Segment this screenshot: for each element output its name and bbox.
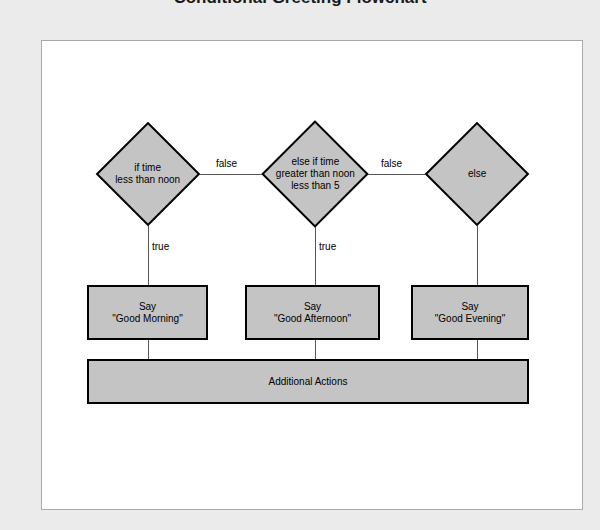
process-node-say-good-evening[interactable]: Say"Good Evening"	[411, 285, 529, 340]
decision-node-label: else if timegreater than noonless than 5	[276, 156, 355, 192]
edge-label-false-1: false	[216, 158, 237, 169]
process-node-label: Say"Good Morning"	[112, 301, 182, 325]
process-node-label: Say"Good Evening"	[435, 301, 505, 325]
process-node-say-good-afternoon[interactable]: Say"Good Afternoon"	[245, 285, 380, 340]
edge-label-true-1: true	[152, 241, 169, 252]
process-node-say-good-morning[interactable]: Say"Good Morning"	[87, 285, 208, 340]
flowchart-canvas: false false true true if timeless than n…	[0, 0, 600, 530]
edge-process3-to-process4	[477, 340, 478, 359]
edge-label-false-2: false	[381, 158, 402, 169]
edge-process1-to-process4	[148, 340, 149, 359]
decision-node-else-if-time-greater-than-noon[interactable]: else if timegreater than noonless than 5	[261, 120, 368, 227]
process-node-label: Additional Actions	[269, 376, 348, 388]
edge-process2-to-process4	[315, 340, 316, 359]
decision-node-else[interactable]: else	[425, 122, 530, 227]
decision-node-label: if timeless than noon	[115, 162, 180, 186]
process-node-additional-actions[interactable]: Additional Actions	[87, 359, 529, 404]
process-node-label: Say"Good Afternoon"	[274, 301, 351, 325]
decision-node-if-time-less-than-noon[interactable]: if timeless than noon	[96, 122, 201, 227]
decision-node-label: else	[468, 168, 486, 180]
edge-label-true-2: true	[319, 241, 336, 252]
